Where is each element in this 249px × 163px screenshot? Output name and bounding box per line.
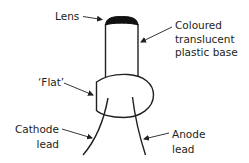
lens-arrow: [83, 17, 102, 20]
lens-label: Lens: [55, 10, 79, 23]
led-body: [106, 24, 139, 78]
lens-cap: [106, 17, 139, 26]
flat-label: ‘Flat’: [38, 76, 64, 89]
base-label-line-3: plastic base: [175, 46, 238, 60]
flat-arrow: [64, 83, 93, 95]
base-arrow: [141, 27, 172, 42]
anode-label-line-2: lead: [172, 142, 205, 157]
anode-label-line-1: Anode: [172, 127, 205, 142]
cathode-label-line-1: Cathode: [13, 122, 59, 137]
lens-label-text: Lens: [55, 10, 79, 23]
base-label: Coloured translucent plastic base: [175, 19, 238, 60]
anode-label: Anode lead: [172, 127, 205, 157]
cathode-label: Cathode lead: [13, 122, 59, 152]
base-label-line-2: translucent: [175, 33, 238, 47]
flat-label-text: ‘Flat’: [38, 76, 64, 89]
base-label-line-1: Coloured: [175, 19, 238, 33]
cathode-label-line-2: lead: [13, 137, 59, 152]
anode-arrow: [144, 133, 169, 139]
cathode-arrow: [62, 129, 92, 138]
